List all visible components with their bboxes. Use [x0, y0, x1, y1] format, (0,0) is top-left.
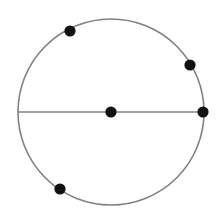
- figure-canvas: [0, 0, 223, 223]
- circle-diagram: [0, 0, 223, 223]
- point-right-endpoint: [197, 106, 208, 117]
- point-upper-right: [184, 59, 195, 70]
- point-upper-left: [64, 25, 75, 36]
- point-lower-left: [54, 183, 65, 194]
- center-point: [105, 106, 116, 117]
